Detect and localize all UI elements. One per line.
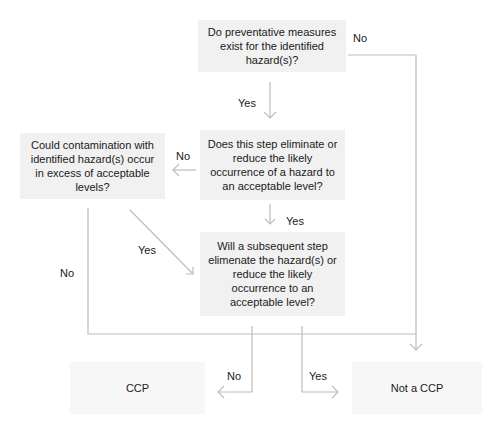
decision-box-preventative-measures: Do preventative measures exist for the i… <box>198 20 346 72</box>
edge-label-q2-no: No <box>176 150 190 163</box>
edge-label-q3-yes: Yes <box>138 244 156 257</box>
outcome-box-ccp: CCP <box>70 362 205 414</box>
outcome-text: Not a CCP <box>391 381 444 395</box>
decision-box-eliminate-hazard: Does this step eliminate or reduce the l… <box>200 130 345 200</box>
decision-text: Does this step eliminate or reduce the l… <box>206 137 339 193</box>
edge-label-q4-no: No <box>227 370 241 383</box>
outcome-text: CCP <box>126 381 149 395</box>
decision-text: Will a subsequent step elimenate the haz… <box>206 239 339 309</box>
outcome-box-not-ccp: Not a CCP <box>352 362 482 414</box>
decision-box-contamination: Could contamination with identified haza… <box>20 133 165 199</box>
decision-box-subsequent-step: Will a subsequent step elimenate the haz… <box>200 232 345 316</box>
edge-label-q4-yes: Yes <box>309 370 327 383</box>
edge-label-q3-no: No <box>60 267 74 280</box>
decision-text: Do preventative measures exist for the i… <box>204 25 340 67</box>
edge-label-q1-no: No <box>353 32 367 45</box>
edge-label-q1-yes: Yes <box>238 97 256 110</box>
edge-label-q2-yes: Yes <box>286 215 304 228</box>
decision-text: Could contamination with identified haza… <box>26 138 159 194</box>
